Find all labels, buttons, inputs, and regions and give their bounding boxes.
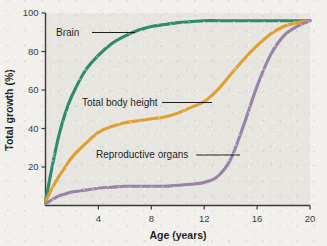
axis-lines <box>46 13 311 206</box>
series-line-brain <box>46 21 311 202</box>
y-tick-label: 40 <box>28 123 39 134</box>
data-series-group <box>46 21 311 204</box>
x-tick-label: 12 <box>199 213 210 224</box>
series-annotation-label: Total body height <box>82 97 158 108</box>
chart-canvas: 20406080100 48121620 BrainTotal body hei… <box>0 0 327 246</box>
x-tick-label: 4 <box>96 213 101 224</box>
y-tick-label: 100 <box>23 7 39 18</box>
y-axis-title: Total growth (%) <box>3 69 15 150</box>
y-tick-label: 60 <box>28 84 39 95</box>
y-tick-label: 80 <box>28 46 39 57</box>
x-axis-tick-labels: 48121620 <box>96 213 316 224</box>
x-axis-title: Age (years) <box>149 229 206 241</box>
series-annotation-label: Reproductive organs <box>96 149 188 160</box>
y-tick-label: 20 <box>28 161 39 172</box>
x-tick-label: 20 <box>305 213 316 224</box>
series-annotation-label: Brain <box>56 27 79 38</box>
series-line-total-body-height <box>46 21 311 202</box>
x-tick-label: 16 <box>252 213 263 224</box>
y-axis-tick-labels: 20406080100 <box>23 7 39 172</box>
growth-chart-figure: 20406080100 48121620 BrainTotal body hei… <box>0 0 327 246</box>
x-tick-label: 8 <box>149 213 154 224</box>
